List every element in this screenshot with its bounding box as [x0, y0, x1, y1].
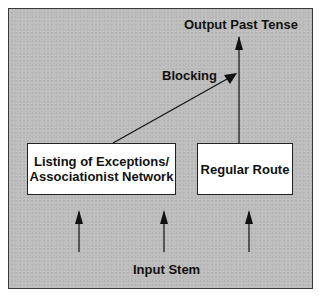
regular-route-box: Regular Route — [197, 143, 293, 195]
blocking-arrow — [113, 74, 236, 143]
regular-route-label: Regular Route — [201, 162, 290, 177]
output-arrowhead-icon — [235, 36, 243, 50]
output-past-tense-label: Output Past Tense — [184, 17, 298, 32]
input-stem-label: Input Stem — [133, 262, 200, 277]
exceptions-label-line1: Listing of Exceptions/ — [30, 154, 174, 169]
blocking-arrowhead-icon — [224, 73, 237, 84]
arrowhead-icon — [160, 210, 168, 224]
arrowhead-icon — [75, 210, 83, 224]
arrowhead-icon — [245, 210, 253, 224]
exceptions-label-line2: Associationist Network — [30, 169, 174, 184]
exceptions-network-box: Listing of Exceptions/ Associationist Ne… — [27, 143, 176, 195]
blocking-label: Blocking — [162, 68, 217, 83]
